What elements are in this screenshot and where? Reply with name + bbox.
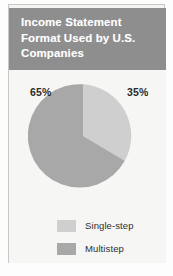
page-title: Income Statement Format Used by U.S. Com… — [21, 15, 156, 62]
chart-legend: Single-step Multistep — [9, 217, 166, 263]
pie-label-single-step: 35% — [127, 86, 149, 98]
chart-body: 65% 35% Single-step Multistep — [9, 70, 166, 263]
pie-label-multistep: 65% — [30, 86, 52, 98]
legend-item-multistep: Multistep — [9, 240, 166, 257]
chart-card: Income Statement Format Used by U.S. Com… — [8, 4, 165, 263]
legend-swatch-single-step — [57, 220, 76, 232]
legend-item-single-step: Single-step — [9, 217, 166, 234]
figure-root: Income Statement Format Used by U.S. Com… — [0, 0, 173, 276]
pie-chart: 65% 35% — [9, 70, 166, 215]
chart-header: Income Statement Format Used by U.S. Com… — [9, 8, 166, 70]
legend-label-multistep: Multistep — [85, 243, 124, 254]
legend-label-single-step: Single-step — [85, 220, 134, 231]
legend-swatch-multistep — [57, 243, 76, 255]
